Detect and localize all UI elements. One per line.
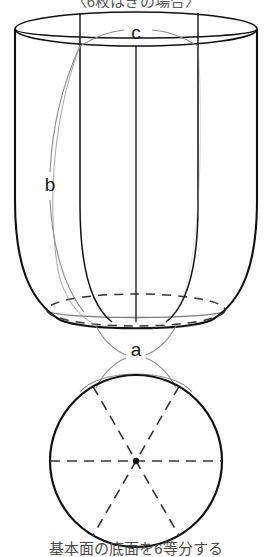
label-b: b [45, 174, 56, 195]
vessel-group [15, 12, 257, 330]
plan-circle-group [50, 375, 222, 547]
arc-a-upper-right [146, 326, 176, 355]
arc-a-circle-cap [80, 374, 192, 392]
vessel-right-silhouette [212, 29, 257, 320]
plan-center-dot [133, 458, 139, 464]
vessel-inner-guide-left [53, 46, 98, 326]
label-c: c [131, 22, 141, 43]
arc-b-guide-upper [50, 46, 80, 172]
vessel-inner-guide-right [150, 46, 201, 330]
label-a: a [131, 339, 142, 360]
vessel-seam-left [80, 44, 112, 322]
vessel-seam-right [166, 44, 198, 322]
arc-a-upper-left [96, 326, 126, 355]
figure-bottom-caption: 基本面の底面を6等分する [0, 541, 272, 557]
